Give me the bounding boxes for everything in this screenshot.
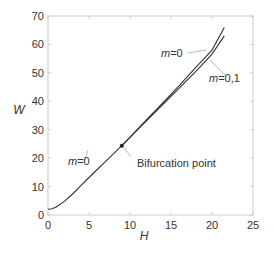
bifurcation-marker: [120, 144, 124, 148]
annotation-m01: m=0,1: [209, 72, 240, 84]
y-tick-label: 70: [32, 10, 44, 22]
series-line-0: [48, 27, 224, 209]
chart: 0510152025010203040506070 H W m=0 m=0 m=…: [0, 0, 273, 255]
leader-bifurcation: [123, 146, 131, 157]
y-tick-label: 20: [32, 152, 44, 164]
y-tick-label: 50: [32, 67, 44, 79]
x-tick-label: 10: [124, 219, 136, 231]
x-tick-label: 20: [206, 219, 218, 231]
y-tick-label: 30: [32, 124, 44, 136]
leader-m0-upper: [188, 50, 206, 53]
x-tick-label: 25: [247, 219, 259, 231]
y-tick-label: 0: [38, 209, 44, 221]
series-lines: [48, 27, 224, 209]
annotation-bifurcation: Bifurcation point: [137, 157, 216, 169]
annotation-m0-lower: m=0: [68, 155, 90, 167]
y-tick-label: 60: [32, 38, 44, 50]
y-tick-label: 10: [32, 181, 44, 193]
annotation-m0-upper: m=0: [161, 47, 183, 59]
x-tick-label: 15: [165, 219, 177, 231]
x-axis-title: H: [140, 229, 149, 243]
x-tick-label: 5: [86, 219, 92, 231]
x-tick-label: 0: [45, 219, 51, 231]
y-tick-label: 40: [32, 95, 44, 107]
y-axis-title: W: [13, 103, 26, 117]
